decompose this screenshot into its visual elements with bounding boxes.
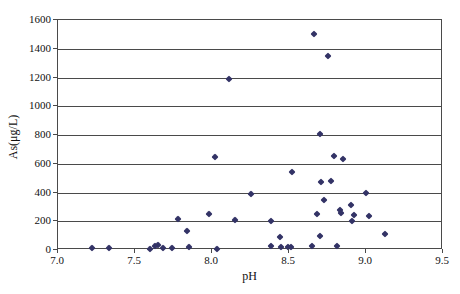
x-tick-mark	[57, 249, 58, 253]
y-tick-label-1600: 1600	[17, 13, 51, 25]
data-point	[267, 243, 274, 250]
y-tick-mark	[53, 105, 57, 106]
gridline-y-1000	[58, 106, 441, 107]
data-point	[232, 216, 239, 223]
data-point	[185, 244, 192, 251]
y-tick-label-1400: 1400	[17, 42, 51, 54]
data-point	[347, 202, 354, 209]
gridline-y-200	[58, 221, 441, 222]
data-point	[339, 156, 346, 163]
data-point	[225, 75, 232, 82]
y-tick-label-200: 200	[17, 214, 51, 226]
data-point	[313, 211, 320, 218]
y-tick-label-600: 600	[17, 157, 51, 169]
data-point	[318, 179, 325, 186]
y-tick-label-1200: 1200	[17, 71, 51, 83]
data-point	[267, 218, 274, 225]
x-tick-mark	[211, 249, 212, 253]
gridline-y-600	[58, 164, 441, 165]
data-point	[289, 169, 296, 176]
data-point	[276, 234, 283, 241]
x-tick-label-9.5: 9.5	[425, 254, 459, 266]
x-tick-label-7.5: 7.5	[117, 254, 151, 266]
y-tick-mark	[53, 220, 57, 221]
data-point	[159, 244, 166, 251]
x-tick-label-7.0: 7.0	[40, 254, 74, 266]
x-axis-title: pH	[57, 269, 442, 284]
data-point	[247, 190, 254, 197]
y-tick-label-400: 400	[17, 186, 51, 198]
y-tick-mark	[53, 77, 57, 78]
data-point	[330, 152, 337, 159]
data-point	[309, 243, 316, 250]
data-point	[362, 189, 369, 196]
data-point	[381, 231, 388, 238]
data-point	[105, 244, 112, 251]
data-point	[349, 217, 356, 224]
gridline-y-1400	[58, 49, 441, 50]
x-tick-mark	[288, 249, 289, 253]
y-tick-mark	[53, 48, 57, 49]
x-tick-mark	[365, 249, 366, 253]
data-point	[324, 52, 331, 59]
data-point	[88, 244, 95, 251]
scatter-chart: As(μg/L) 020040060080010001200140016007.…	[0, 0, 460, 294]
y-tick-mark	[53, 134, 57, 135]
y-tick-label-800: 800	[17, 128, 51, 140]
data-point	[321, 196, 328, 203]
data-point	[333, 242, 340, 249]
data-point	[184, 228, 191, 235]
y-tick-mark	[53, 19, 57, 20]
gridline-y-800	[58, 135, 441, 136]
y-tick-mark	[53, 192, 57, 193]
x-tick-label-8.0: 8.0	[194, 254, 228, 266]
data-point	[327, 177, 334, 184]
data-point	[338, 209, 345, 216]
plot-area	[57, 19, 442, 249]
y-tick-mark	[53, 163, 57, 164]
x-tick-label-8.5: 8.5	[271, 254, 305, 266]
data-point	[168, 244, 175, 251]
data-point	[366, 212, 373, 219]
data-point	[316, 130, 323, 137]
data-point	[212, 153, 219, 160]
x-tick-mark	[134, 249, 135, 253]
x-tick-mark	[442, 249, 443, 253]
gridline-y-1200	[58, 78, 441, 79]
y-tick-label-1000: 1000	[17, 99, 51, 111]
data-point	[316, 232, 323, 239]
data-point	[205, 211, 212, 218]
data-point	[213, 245, 220, 252]
data-point	[278, 244, 285, 251]
x-tick-label-9.0: 9.0	[348, 254, 382, 266]
data-point	[310, 31, 317, 38]
